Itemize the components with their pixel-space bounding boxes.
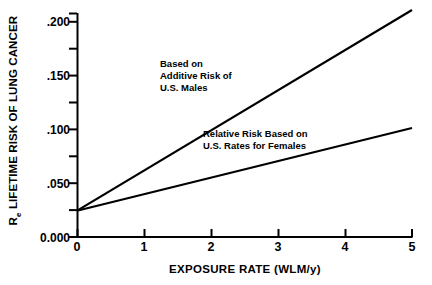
chart-figure: Re LIFETIME RISK OF LUNG CANCER 0.000 .0… xyxy=(0,0,432,285)
x-tick-label: 1 xyxy=(129,240,159,254)
x-axis-tick-labels: 0 1 2 3 4 5 xyxy=(0,240,432,262)
x-tick-label: 3 xyxy=(263,240,293,254)
annotation-relative-risk: Relative Risk Based on U.S. Rates for Fe… xyxy=(203,128,308,152)
x-tick-label: 5 xyxy=(397,240,427,254)
series-line-additive-risk-us-males xyxy=(78,10,412,210)
x-axis-ticks xyxy=(78,229,413,237)
x-tick-label: 4 xyxy=(330,240,360,254)
annotation-additive-risk: Based on Additive Risk of U.S. Males xyxy=(160,58,232,95)
x-axis-title: EXPOSURE RATE (WLM/y) xyxy=(77,263,413,275)
x-tick-label: 2 xyxy=(196,240,226,254)
y-axis-ticks xyxy=(69,14,77,238)
x-tick-label: 0 xyxy=(62,240,92,254)
